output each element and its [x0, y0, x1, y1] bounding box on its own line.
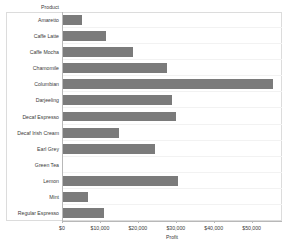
value-axis-title: Profit	[62, 233, 282, 241]
x-tick-mark	[176, 221, 177, 223]
value-axis-line	[62, 221, 282, 222]
category-label: Regular Espresso	[18, 209, 59, 216]
chart-band	[62, 12, 282, 28]
bar[interactable]	[62, 79, 273, 89]
bar[interactable]	[62, 208, 104, 218]
x-tick-mark	[214, 221, 215, 223]
chart-band	[62, 108, 282, 124]
value-axis-spine	[62, 12, 63, 221]
plot-area	[62, 12, 282, 221]
category-label: Caffe Mocha	[30, 49, 59, 56]
category-label: Green Tea	[35, 161, 59, 168]
category-label: Amaretto	[38, 17, 59, 24]
bar[interactable]	[62, 144, 155, 154]
category-label: Mint	[49, 193, 59, 200]
bar[interactable]	[62, 176, 178, 186]
chart-band	[62, 157, 282, 173]
chart-band	[62, 92, 282, 108]
bar[interactable]	[62, 192, 88, 202]
profit-by-product-bar-chart: Product AmarettoCaffe LatteCaffe MochaCh…	[0, 0, 291, 244]
category-label: Lemon	[43, 177, 59, 184]
bar[interactable]	[62, 63, 167, 73]
chart-band	[62, 173, 282, 189]
x-tick-label: $30,000	[166, 224, 185, 232]
x-tick-label: $40,000	[204, 224, 223, 232]
bar[interactable]	[62, 128, 119, 138]
chart-band	[62, 141, 282, 157]
bar[interactable]	[62, 112, 176, 122]
bar[interactable]	[62, 15, 82, 25]
category-label: Chamomile	[33, 65, 59, 72]
x-tick-label: $0	[59, 224, 65, 232]
x-tick-mark	[100, 221, 101, 223]
category-label: Decaf Irish Cream	[17, 129, 59, 136]
category-label: Earl Grey	[37, 145, 59, 152]
x-tick-label: $10,000	[91, 224, 110, 232]
category-label: Caffe Latte	[34, 33, 59, 40]
bar[interactable]	[62, 47, 133, 57]
x-tick-label: $50,000	[242, 224, 261, 232]
chart-band	[62, 205, 282, 221]
chart-band	[62, 28, 282, 44]
x-tick-label: $20,000	[128, 224, 147, 232]
chart-band	[62, 189, 282, 205]
chart-band	[62, 76, 282, 92]
bar[interactable]	[62, 31, 106, 41]
x-tick-mark	[62, 221, 63, 223]
x-tick-mark	[252, 221, 253, 223]
category-label: Columbian	[34, 81, 59, 88]
x-tick-mark	[138, 221, 139, 223]
category-axis: AmarettoCaffe LatteCaffe MochaChamomileC…	[0, 12, 62, 221]
category-label: Decaf Espresso	[22, 113, 59, 120]
chart-band	[62, 125, 282, 141]
category-label: Darjeeling	[36, 97, 59, 104]
bar[interactable]	[62, 95, 172, 105]
chart-band	[62, 60, 282, 76]
chart-band	[62, 44, 282, 60]
